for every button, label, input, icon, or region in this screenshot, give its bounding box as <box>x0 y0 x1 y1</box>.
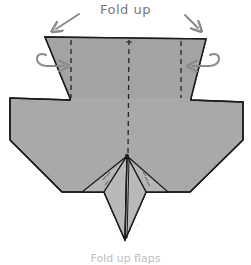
right-diagonal-arrow-icon <box>185 15 198 28</box>
center-point <box>125 154 129 158</box>
left-diagonal-arrow-icon <box>56 14 79 29</box>
caption-label: Fold up flaps <box>0 252 251 265</box>
upper-section-shade <box>45 37 206 98</box>
